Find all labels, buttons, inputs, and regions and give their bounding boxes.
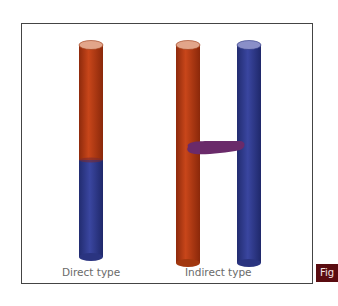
- indirect-blue-vessel: [237, 41, 261, 268]
- label-indirect-type: Indirect type: [185, 266, 252, 278]
- figure-tab[interactable]: Fig: [316, 264, 338, 282]
- label-direct-type: Direct type: [62, 266, 120, 278]
- direct-type-vessel: [79, 41, 103, 262]
- bridge-vessel: [187, 141, 244, 154]
